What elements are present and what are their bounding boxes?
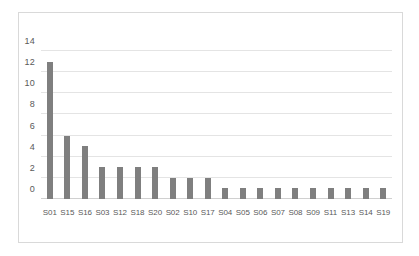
x-axis-tick-label: S17 bbox=[199, 206, 217, 220]
bar-slot bbox=[76, 51, 94, 199]
x-axis-tick-label: S16 bbox=[76, 206, 94, 220]
bar[interactable] bbox=[363, 188, 369, 199]
bar-slot bbox=[181, 51, 199, 199]
y-axis-tick-label: 2 bbox=[30, 163, 35, 173]
bar[interactable] bbox=[152, 167, 158, 199]
bar-slot bbox=[252, 51, 270, 199]
bar-slot bbox=[94, 51, 112, 199]
bar[interactable] bbox=[82, 146, 88, 199]
x-axis-tick-label: S06 bbox=[252, 206, 270, 220]
x-axis-labels: S01S15S16S03S12S18S20S02S10S17S04S05S06S… bbox=[41, 206, 392, 220]
bar[interactable] bbox=[205, 178, 211, 199]
bars-layer bbox=[41, 51, 392, 199]
x-axis-tick-label: S10 bbox=[181, 206, 199, 220]
y-axis-tick-label: 0 bbox=[30, 184, 35, 194]
x-axis-tick-label: S03 bbox=[94, 206, 112, 220]
bar[interactable] bbox=[275, 188, 281, 199]
y-axis-tick-label: 12 bbox=[25, 57, 35, 67]
x-axis-tick-label: S20 bbox=[146, 206, 164, 220]
y-axis-tick-label: 10 bbox=[25, 78, 35, 88]
bar[interactable] bbox=[99, 167, 105, 199]
x-axis-tick-label: S05 bbox=[234, 206, 252, 220]
y-axis-tick-label: 14 bbox=[25, 36, 35, 46]
bar-slot bbox=[269, 51, 287, 199]
bar-slot bbox=[146, 51, 164, 199]
bar-slot bbox=[304, 51, 322, 199]
bar[interactable] bbox=[170, 178, 176, 199]
bar-slot bbox=[41, 51, 59, 199]
x-axis-tick-label: S12 bbox=[111, 206, 129, 220]
bar[interactable] bbox=[240, 188, 246, 199]
x-axis-tick-label: S15 bbox=[59, 206, 77, 220]
bar[interactable] bbox=[222, 188, 228, 199]
bar[interactable] bbox=[328, 188, 334, 199]
bar[interactable] bbox=[310, 188, 316, 199]
bar[interactable] bbox=[292, 188, 298, 199]
bar-slot bbox=[164, 51, 182, 199]
x-axis-tick-label: S13 bbox=[339, 206, 357, 220]
bar[interactable] bbox=[187, 178, 193, 199]
bar-slot bbox=[287, 51, 305, 199]
bar[interactable] bbox=[117, 167, 123, 199]
bar-chart-figure: 02468101214 S01S15S16S03S12S18S20S02S10S… bbox=[18, 12, 403, 243]
x-axis-tick-label: S04 bbox=[216, 206, 234, 220]
y-axis-tick-label: 8 bbox=[30, 99, 35, 109]
plot-area: 02468101214 bbox=[41, 51, 392, 199]
x-axis-tick-label: S08 bbox=[287, 206, 305, 220]
x-axis-tick-label: S19 bbox=[374, 206, 392, 220]
bar[interactable] bbox=[257, 188, 263, 199]
bar-slot bbox=[216, 51, 234, 199]
bar[interactable] bbox=[64, 136, 70, 199]
bar-slot bbox=[339, 51, 357, 199]
bar-slot bbox=[234, 51, 252, 199]
y-axis-tick-label: 6 bbox=[30, 121, 35, 131]
bar-slot bbox=[357, 51, 375, 199]
bar[interactable] bbox=[380, 188, 386, 199]
y-axis-tick-label: 4 bbox=[30, 142, 35, 152]
x-axis-tick-label: S07 bbox=[269, 206, 287, 220]
x-axis-tick-label: S09 bbox=[304, 206, 322, 220]
bar[interactable] bbox=[345, 188, 351, 199]
bar-slot bbox=[129, 51, 147, 199]
bar-slot bbox=[322, 51, 340, 199]
bar-slot bbox=[199, 51, 217, 199]
bar[interactable] bbox=[47, 62, 53, 199]
bar-slot bbox=[111, 51, 129, 199]
x-axis-tick-label: S11 bbox=[322, 206, 340, 220]
x-axis-tick-label: S02 bbox=[164, 206, 182, 220]
x-axis-tick-label: S14 bbox=[357, 206, 375, 220]
bar-slot bbox=[59, 51, 77, 199]
x-axis-tick-label: S01 bbox=[41, 206, 59, 220]
x-axis-tick-label: S18 bbox=[129, 206, 147, 220]
bar[interactable] bbox=[135, 167, 141, 199]
bar-slot bbox=[374, 51, 392, 199]
